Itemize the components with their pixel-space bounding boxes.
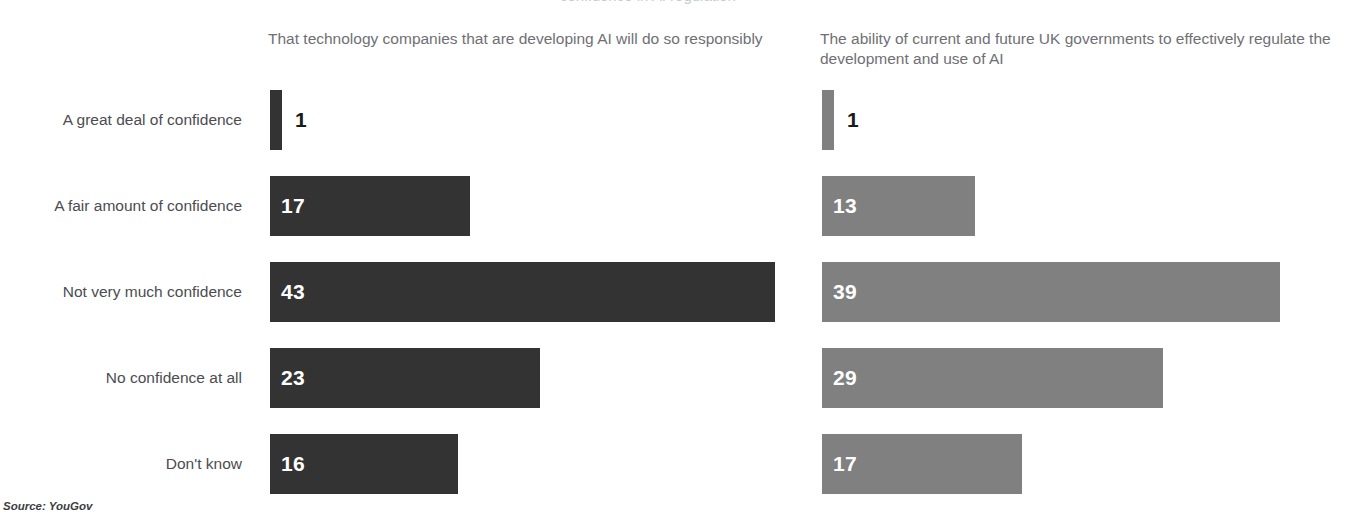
panel-header-left: That technology companies that are devel… [268,29,788,49]
bar-row: 1 [822,90,1280,150]
category-label: Don't know [0,434,252,494]
bar-right-3: 29 [822,348,1163,408]
category-axis-labels: A great deal of confidence A fair amount… [0,90,252,520]
bar-row: 16 [270,434,775,494]
bar-row: 29 [822,348,1280,408]
page-title: confidence in AI regulation [560,0,736,4]
bar-value-label: 13 [822,194,857,218]
bar-value-label: 17 [270,194,305,218]
bar-right-2: 39 [822,262,1280,322]
bar-left-4: 16 [270,434,458,494]
bar-panel-left: 1 17 43 23 16 [270,90,775,520]
bar-row: 23 [270,348,775,408]
bar-left-0 [270,90,282,150]
bar-value-label: 43 [270,280,305,304]
bar-value-label: 29 [822,366,857,390]
bar-row: 17 [270,176,775,236]
bar-left-1: 17 [270,176,470,236]
category-label: A great deal of confidence [0,90,252,150]
bar-value-label: 23 [270,366,305,390]
bar-value-label: 16 [270,452,305,476]
bar-right-4: 17 [822,434,1022,494]
chart-root: confidence in AI regulation That technol… [0,0,1356,525]
cropped-title-strip: confidence in AI regulation [0,0,1356,10]
bar-value-label: 1 [834,108,859,132]
bar-left-3: 23 [270,348,540,408]
category-label: No confidence at all [0,348,252,408]
bar-panel-right: 1 13 39 29 17 [822,90,1280,520]
bar-left-2: 43 [270,262,775,322]
category-label: A fair amount of confidence [0,176,252,236]
panel-header-right: The ability of current and future UK gov… [820,29,1354,70]
bar-value-label: 39 [822,280,857,304]
bar-row: 1 [270,90,775,150]
bar-value-label: 1 [282,108,307,132]
source-note: Source: YouGov [3,500,92,512]
bar-row: 39 [822,262,1280,322]
category-label: Not very much confidence [0,262,252,322]
bar-right-0 [822,90,834,150]
bar-row: 13 [822,176,1280,236]
bar-row: 43 [270,262,775,322]
bar-row: 17 [822,434,1280,494]
bar-value-label: 17 [822,452,857,476]
bar-right-1: 13 [822,176,975,236]
